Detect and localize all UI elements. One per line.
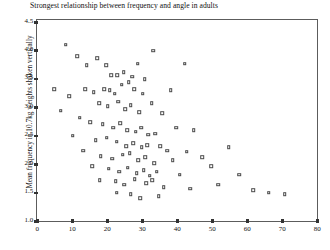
data-point bbox=[129, 193, 133, 197]
y-tick-label: 1.0 bbox=[25, 216, 34, 224]
y-tick-label: 4.0 bbox=[25, 45, 34, 53]
data-point bbox=[81, 149, 85, 153]
data-point bbox=[115, 191, 119, 195]
y-tick: 2.0 bbox=[34, 163, 38, 166]
plot-right-border bbox=[317, 19, 318, 222]
data-point bbox=[115, 140, 119, 144]
data-point bbox=[88, 120, 92, 124]
x-tick: 60 bbox=[246, 219, 249, 223]
data-point bbox=[130, 75, 134, 79]
data-point bbox=[94, 139, 98, 143]
data-point bbox=[120, 83, 124, 87]
y-tick-label: 3.5 bbox=[25, 73, 34, 81]
data-point bbox=[200, 156, 204, 160]
x-tick-label: 70 bbox=[279, 225, 286, 233]
data-point bbox=[136, 159, 140, 163]
data-point bbox=[113, 92, 117, 96]
x-tick-label: 60 bbox=[244, 225, 251, 233]
data-point bbox=[144, 181, 148, 185]
data-point bbox=[71, 134, 75, 138]
data-point bbox=[109, 73, 113, 77]
x-tick-label: 30 bbox=[139, 225, 146, 233]
y-tick: 2.5 bbox=[34, 135, 38, 138]
data-point bbox=[157, 194, 161, 198]
data-point bbox=[111, 157, 115, 161]
data-point bbox=[158, 144, 162, 148]
data-point bbox=[237, 173, 241, 177]
x-tick: 80 bbox=[316, 219, 319, 223]
data-point bbox=[99, 155, 103, 159]
data-point bbox=[126, 166, 130, 170]
data-point bbox=[101, 123, 105, 127]
data-point bbox=[97, 102, 101, 106]
data-point bbox=[78, 116, 82, 120]
data-point bbox=[85, 64, 89, 68]
data-point bbox=[151, 49, 155, 53]
data-point bbox=[105, 136, 109, 140]
data-point bbox=[127, 81, 131, 85]
x-tick-label: 10 bbox=[69, 225, 76, 233]
data-point bbox=[102, 87, 106, 91]
y-tick-label: 3.0 bbox=[25, 102, 34, 110]
data-point bbox=[150, 102, 154, 106]
data-point bbox=[123, 107, 127, 111]
y-tick-label: 1.5 bbox=[25, 187, 34, 195]
data-point bbox=[64, 43, 68, 47]
data-point bbox=[59, 109, 63, 113]
data-point bbox=[129, 103, 133, 107]
x-tick-label: 80 bbox=[314, 225, 321, 233]
y-tick: 4.5 bbox=[34, 21, 38, 24]
x-tick-label: 20 bbox=[104, 225, 111, 233]
plot-top-border bbox=[36, 19, 318, 20]
data-point bbox=[92, 90, 96, 94]
data-point bbox=[140, 145, 144, 149]
y-tick-label: 4.5 bbox=[25, 17, 34, 25]
y-tick: 3.5 bbox=[34, 78, 38, 81]
data-point bbox=[83, 87, 87, 91]
data-point bbox=[107, 167, 111, 171]
x-tick-label: 40 bbox=[174, 225, 181, 233]
data-point bbox=[134, 130, 138, 134]
data-point bbox=[171, 159, 175, 163]
data-point bbox=[142, 168, 146, 172]
data-point bbox=[122, 183, 126, 187]
data-point bbox=[165, 149, 169, 153]
data-point bbox=[141, 92, 145, 96]
x-tick: 20 bbox=[106, 219, 109, 223]
x-tick: 30 bbox=[141, 219, 144, 223]
data-point bbox=[192, 128, 196, 132]
data-point bbox=[106, 104, 110, 108]
scatter-chart-figure: Strongest relationship between frequency… bbox=[0, 0, 330, 250]
data-point bbox=[148, 174, 152, 178]
x-tick: 0 bbox=[36, 219, 39, 223]
x-tick: 50 bbox=[211, 219, 214, 223]
y-tick: 4.0 bbox=[34, 49, 38, 52]
data-point bbox=[146, 143, 150, 147]
chart-title: Strongest relationship between frequency… bbox=[30, 1, 320, 11]
data-point bbox=[185, 150, 189, 154]
data-point bbox=[111, 126, 115, 130]
data-point bbox=[188, 187, 192, 191]
data-point bbox=[90, 164, 94, 168]
data-point bbox=[118, 122, 122, 126]
y-tick-label: 2.5 bbox=[25, 130, 34, 138]
data-point bbox=[251, 189, 255, 193]
data-point bbox=[125, 128, 129, 132]
data-point bbox=[122, 70, 126, 74]
data-point bbox=[209, 164, 213, 168]
data-point bbox=[169, 89, 173, 93]
data-point bbox=[146, 133, 150, 137]
data-point bbox=[132, 141, 136, 145]
x-tick-label: 0 bbox=[36, 225, 40, 233]
plot-area: 1.01.52.02.53.03.54.04.5 010203040506070… bbox=[36, 19, 318, 222]
data-point bbox=[160, 111, 164, 115]
data-point bbox=[150, 178, 154, 182]
data-point bbox=[118, 170, 122, 174]
data-point bbox=[143, 156, 147, 160]
data-point bbox=[283, 193, 287, 197]
data-point bbox=[155, 170, 159, 174]
data-point bbox=[114, 180, 118, 184]
x-tick: 40 bbox=[176, 219, 179, 223]
data-point bbox=[136, 62, 140, 66]
data-point bbox=[174, 126, 178, 130]
